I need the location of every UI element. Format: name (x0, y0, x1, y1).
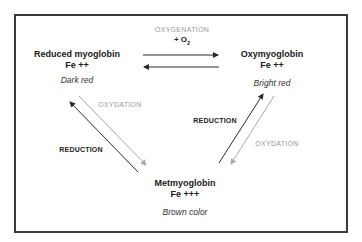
oxygen-reagent: + O2 (174, 35, 190, 46)
metmyoglobin-color: Brown color (163, 207, 208, 217)
reduced-myoglobin-name: Reduced myoglobin (34, 49, 120, 60)
left-reduction-label: REDUCTION (59, 146, 102, 153)
right-oxydation-label: OXYDATION (255, 140, 298, 147)
oxymyoglobin-name: Oxymyoglobin (241, 49, 304, 60)
metmyoglobin-name: Metmyoglobin (155, 178, 216, 189)
oxymyoglobin-color: Bright red (254, 78, 291, 88)
left-reduction-arrow (70, 102, 138, 172)
oxygen-subscript: 2 (187, 40, 190, 46)
right-oxydation-arrow (231, 96, 274, 164)
right-reduction-label: REDUCTION (193, 117, 236, 124)
reduced-myoglobin-color: Dark red (61, 75, 94, 85)
reduced-myoglobin-iron: Fe ++ (65, 60, 89, 71)
oxygenation-label: OXYGENATION (155, 26, 209, 33)
left-oxydation-label: OXYDATION (98, 101, 141, 108)
metmyoglobin-iron: Fe +++ (171, 189, 200, 200)
oxygen-reagent-text: + O (174, 35, 187, 44)
oxymyoglobin-iron: Fe ++ (260, 60, 284, 71)
right-reduction-arrow (219, 94, 263, 163)
